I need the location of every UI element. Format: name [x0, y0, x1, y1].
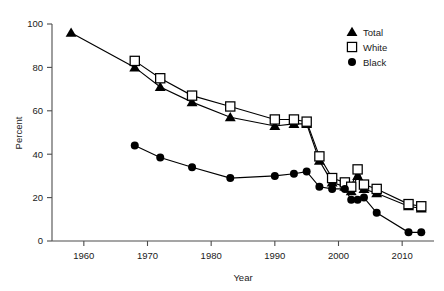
chart-legend: TotalWhiteBlack — [347, 27, 388, 68]
legend-label: Total — [363, 27, 383, 38]
data-point — [315, 152, 324, 161]
y-tick-label: 0 — [38, 235, 43, 246]
data-point — [187, 91, 196, 100]
data-point — [417, 228, 425, 236]
data-point — [225, 112, 236, 121]
data-point — [328, 173, 337, 182]
data-point — [373, 209, 381, 217]
data-point — [290, 170, 298, 178]
y-tick-label: 100 — [27, 18, 43, 29]
y-tick-label: 80 — [32, 62, 43, 73]
line-chart-plot: 020406080100 Percent 1960197019801990200… — [0, 0, 444, 291]
data-point — [328, 185, 336, 193]
y-axis-title: Percent — [13, 116, 24, 149]
data-point — [156, 74, 165, 83]
data-point — [360, 194, 368, 202]
data-point — [417, 202, 426, 211]
data-point — [156, 153, 164, 161]
x-tick-label: 1960 — [73, 250, 94, 261]
data-point — [271, 172, 279, 180]
data-point — [226, 102, 235, 111]
x-tick-label: 1990 — [264, 250, 285, 261]
x-tick-label: 1970 — [137, 250, 158, 261]
data-point — [359, 180, 368, 189]
data-point — [188, 163, 196, 171]
data-point — [372, 184, 381, 193]
y-tick-label: 20 — [32, 192, 43, 203]
data-point — [226, 174, 234, 182]
data-point — [66, 27, 77, 36]
legend-marker-open-square — [347, 42, 356, 51]
legend-label: Black — [363, 57, 386, 68]
data-point — [341, 185, 349, 193]
y-axis-ticks: 020406080100 — [27, 18, 52, 246]
data-point — [270, 115, 279, 124]
legend-item-white: White — [347, 42, 387, 53]
data-point — [353, 165, 362, 174]
data-point — [289, 115, 298, 124]
legend-marker-filled-triangle — [347, 27, 358, 36]
x-axis: 196019701980199020002010 Year — [52, 241, 434, 283]
data-point — [131, 142, 139, 150]
x-axis-title: Year — [233, 272, 252, 283]
series-white — [130, 56, 426, 211]
data-point — [302, 117, 311, 126]
data-point — [405, 228, 413, 236]
x-tick-label: 2010 — [392, 250, 413, 261]
legend-label: White — [363, 42, 387, 53]
y-tick-label: 60 — [32, 105, 43, 116]
chart-container: 020406080100 Percent 1960197019801990200… — [0, 0, 444, 291]
x-axis-ticks: 196019701980199020002010 — [73, 241, 412, 261]
data-point — [404, 200, 413, 209]
data-point — [130, 56, 139, 65]
y-axis: 020406080100 Percent — [13, 18, 52, 246]
legend-item-black: Black — [348, 57, 386, 68]
x-tick-label: 2000 — [328, 250, 349, 261]
y-tick-label: 40 — [32, 149, 43, 160]
legend-marker-filled-circle — [348, 58, 356, 66]
data-point — [303, 168, 311, 176]
data-point — [315, 183, 323, 191]
x-tick-label: 1980 — [201, 250, 222, 261]
legend-item-total: Total — [347, 27, 384, 38]
